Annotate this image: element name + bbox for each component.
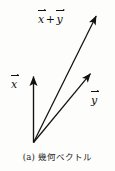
- vector-sum-arrow: [34, 16, 97, 143]
- label-x-plus-y: x+y: [38, 14, 63, 25]
- label-x-plus-y-base: x: [38, 14, 44, 25]
- label-y-text: y: [91, 95, 97, 106]
- label-y: y: [91, 95, 97, 106]
- label-x-text: x: [11, 79, 17, 90]
- label-x: x: [11, 79, 17, 90]
- figure-caption: (a) 幾何ベクトル: [0, 153, 115, 162]
- label-plus-operator: +: [44, 13, 56, 26]
- label-x-plus-y-addend: y: [56, 14, 62, 25]
- geometric-vector-figure: x+y x y (a) 幾何ベクトル: [0, 0, 115, 171]
